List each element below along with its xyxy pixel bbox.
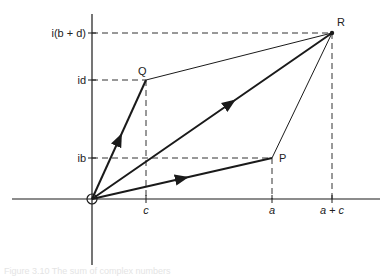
point-R-marker (330, 31, 334, 35)
figure-caption: Figure 3.10 The sum of complex numbers (4, 266, 170, 276)
vector-OR (92, 33, 332, 199)
x-tick-label-c: c (143, 204, 149, 216)
vector-OP (92, 158, 272, 199)
y-tick-label-b: ib (77, 152, 86, 164)
y-tick-label-d: id (77, 74, 86, 86)
argand-diagram: R Q P i(b + d) id ib c a a + c (0, 0, 391, 278)
point-label-R: R (337, 16, 345, 28)
x-tick-label-a-plus-c: a + c (320, 204, 345, 216)
y-tick-label-b-plus-d: i(b + d) (51, 27, 86, 39)
point-label-Q: Q (138, 65, 147, 77)
side-PR (272, 33, 332, 158)
point-label-P: P (279, 152, 286, 164)
side-QR (146, 33, 332, 80)
x-tick-label-a: a (269, 204, 275, 216)
